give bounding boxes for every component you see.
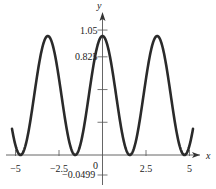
chart: −5−2.502.551.050.825 x y −0.0499 (0, 0, 216, 189)
x-axis-label: x (205, 150, 211, 161)
y-min-label: −0.0499 (62, 169, 95, 180)
x-tick-label: −5 (10, 163, 21, 174)
y-tick-label: 1.05 (80, 25, 98, 36)
ticks: −5−2.502.551.050.825 (10, 25, 192, 175)
y-axis-label: y (96, 0, 102, 11)
x-tick-label: 2.5 (140, 163, 153, 174)
x-tick-label: 5 (187, 163, 192, 174)
